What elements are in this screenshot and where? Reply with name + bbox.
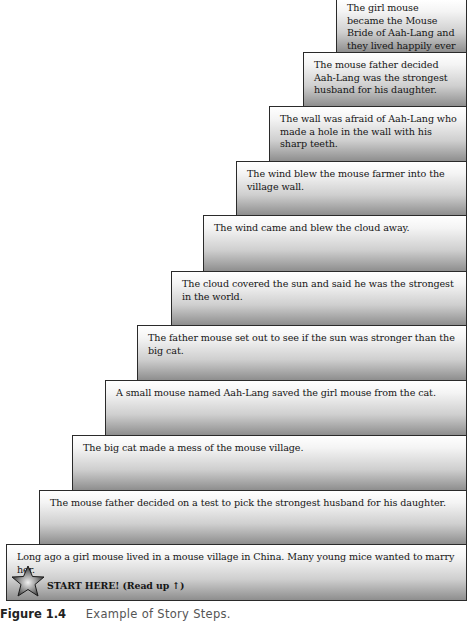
- figure-title: Example of Story Steps.: [86, 607, 231, 621]
- story-step-1: Long ago a girl mouse lived in a mouse v…: [6, 544, 467, 601]
- story-step-7: The wind came and blew the cloud away.: [203, 215, 467, 272]
- story-step-text: The mouse father decided Aah-Lang was th…: [314, 59, 458, 97]
- story-step-11: The girl mouse became the Mouse Bride of…: [336, 0, 467, 53]
- story-step-text: The wind blew the mouse farmer into the …: [247, 168, 458, 193]
- start-here-label: START HERE! (Read up ↑): [47, 580, 184, 593]
- story-step-text: The wall was afraid of Aah-Lang who made…: [280, 113, 458, 151]
- story-step-text: A small mouse named Aah-Lang saved the g…: [116, 387, 458, 400]
- figure-caption: Figure 1.4 Example of Story Steps.: [0, 607, 231, 621]
- story-step-5: The father mouse set out to see if the s…: [137, 325, 467, 381]
- story-step-text: The wind came and blew the cloud away.: [214, 222, 458, 235]
- story-step-8: The wind blew the mouse farmer into the …: [236, 161, 467, 216]
- story-staircase: The girl mouse became the Mouse Bride of…: [0, 0, 472, 602]
- arrow-up-icon: ↑: [172, 580, 180, 591]
- story-step-10: The mouse father decided Aah-Lang was th…: [303, 52, 467, 107]
- figure-number: Figure 1.4: [0, 607, 66, 621]
- start-marker: START HERE! (Read up ↑): [11, 565, 184, 597]
- story-step-2: The mouse father decided on a test to pi…: [39, 490, 467, 545]
- story-step-text: The cloud covered the sun and said he wa…: [182, 278, 458, 303]
- story-step-text: The big cat made a mess of the mouse vil…: [83, 442, 458, 455]
- story-step-text: The father mouse set out to see if the s…: [148, 332, 458, 357]
- star-icon: [11, 565, 45, 597]
- story-step-text: The mouse father decided on a test to pi…: [50, 497, 458, 510]
- story-step-9: The wall was afraid of Aah-Lang who made…: [269, 106, 467, 162]
- story-step-4: A small mouse named Aah-Lang saved the g…: [105, 380, 467, 436]
- story-step-3: The big cat made a mess of the mouse vil…: [72, 435, 467, 491]
- story-step-6: The cloud covered the sun and said he wa…: [171, 271, 467, 326]
